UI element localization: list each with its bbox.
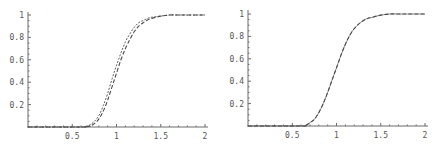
y-tick-label: 0.6 <box>10 56 25 65</box>
left-chart: 0.511.520.20.40.60.81 <box>0 0 219 146</box>
left-chart-panel: 0.511.520.20.40.60.81 <box>0 0 219 146</box>
x-tick-label: 0.5 <box>285 131 300 140</box>
curve-series-2 <box>248 14 425 126</box>
x-tick-label: 1 <box>114 132 119 141</box>
y-tick-label: 0.4 <box>230 77 245 86</box>
x-tick-label: 1.5 <box>374 131 389 140</box>
x-tick-label: 2 <box>423 131 428 140</box>
curve-series-1 <box>28 15 205 127</box>
right-chart: 0.511.520.20.40.60.81 <box>219 0 438 146</box>
curve-series-1 <box>248 14 425 126</box>
x-tick-label: 2 <box>203 132 208 141</box>
right-chart-panel: 0.511.520.20.40.60.81 <box>219 0 438 146</box>
x-tick-label: 0.5 <box>65 132 80 141</box>
curve-series-2 <box>28 15 205 127</box>
x-tick-label: 1 <box>334 131 339 140</box>
y-tick-label: 0.6 <box>230 55 245 64</box>
y-tick-label: 1 <box>19 11 24 20</box>
y-tick-label: 1 <box>239 10 244 19</box>
y-tick-label: 0.4 <box>10 78 25 87</box>
y-tick-label: 0.8 <box>230 32 245 41</box>
y-tick-label: 0.8 <box>10 33 25 42</box>
x-tick-label: 1.5 <box>154 132 169 141</box>
y-tick-label: 0.2 <box>10 101 25 110</box>
y-tick-label: 0.2 <box>230 100 245 109</box>
